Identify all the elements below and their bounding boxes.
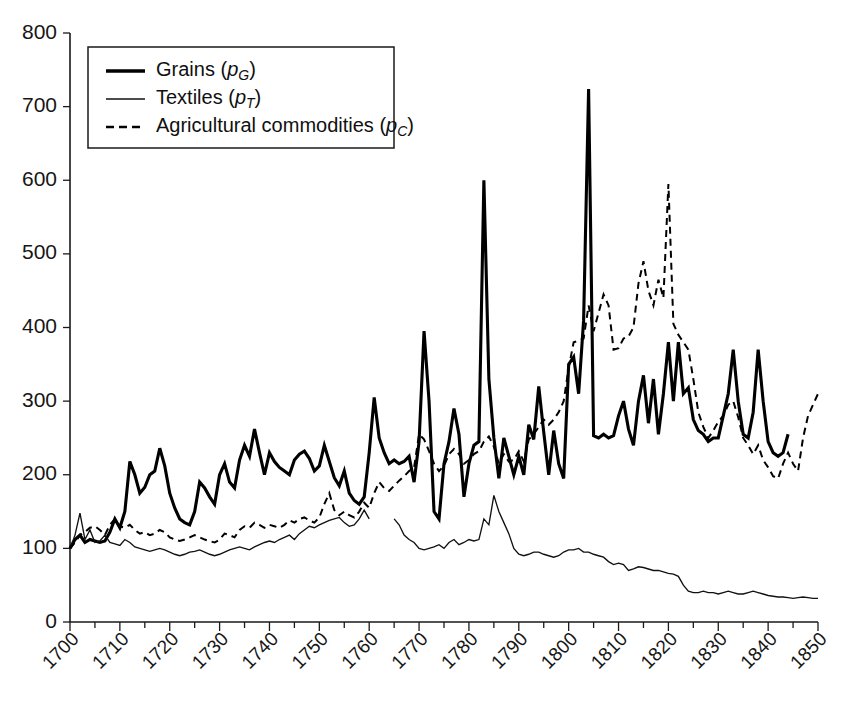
x-tick-label: 1810 bbox=[587, 628, 632, 673]
x-tick-label: 1710 bbox=[88, 628, 133, 673]
x-tick-label: 1850 bbox=[786, 628, 831, 673]
chart-container: 0100200300400500600700800 17001710172017… bbox=[0, 0, 847, 704]
y-tick-label: 0 bbox=[45, 609, 57, 632]
y-tick-label: 800 bbox=[22, 20, 57, 43]
y-tick-label: 600 bbox=[22, 167, 57, 190]
x-tick-label: 1760 bbox=[337, 628, 382, 673]
y-tick-label: 100 bbox=[22, 535, 57, 558]
y-tick-label: 500 bbox=[22, 240, 57, 263]
y-tick-label: 400 bbox=[22, 314, 57, 337]
series-line-textiles bbox=[394, 495, 818, 598]
series-line-grains bbox=[70, 89, 788, 548]
x-tick-label: 1740 bbox=[238, 628, 283, 673]
x-tick-label: 1820 bbox=[636, 628, 681, 673]
x-axis-ticks: 1700171017201730174017501760177017801790… bbox=[38, 622, 831, 673]
y-tick-label: 200 bbox=[22, 461, 57, 484]
line-chart: 0100200300400500600700800 17001710172017… bbox=[0, 0, 847, 704]
legend-label: Textiles (pT) bbox=[156, 86, 261, 110]
x-tick-label: 1790 bbox=[487, 628, 532, 673]
x-tick-label: 1750 bbox=[287, 628, 332, 673]
y-axis-ticks: 0100200300400500600700800 bbox=[22, 20, 70, 632]
x-tick-label: 1700 bbox=[38, 628, 83, 673]
x-tick-label: 1730 bbox=[188, 628, 233, 673]
x-tick-label: 1780 bbox=[437, 628, 482, 673]
x-tick-label: 1800 bbox=[537, 628, 582, 673]
y-tick-label: 300 bbox=[22, 388, 57, 411]
x-tick-label: 1770 bbox=[387, 628, 432, 673]
series-line-commodities bbox=[70, 184, 818, 548]
x-tick-label: 1830 bbox=[686, 628, 731, 673]
x-tick-label: 1840 bbox=[736, 628, 781, 673]
x-tick-label: 1720 bbox=[138, 628, 183, 673]
chart-legend: Grains (pG)Textiles (pT)Agricultural com… bbox=[88, 47, 414, 148]
legend-label: Agricultural commodities (pC) bbox=[156, 114, 414, 138]
data-series-layer bbox=[70, 89, 818, 598]
y-tick-label: 700 bbox=[22, 93, 57, 116]
